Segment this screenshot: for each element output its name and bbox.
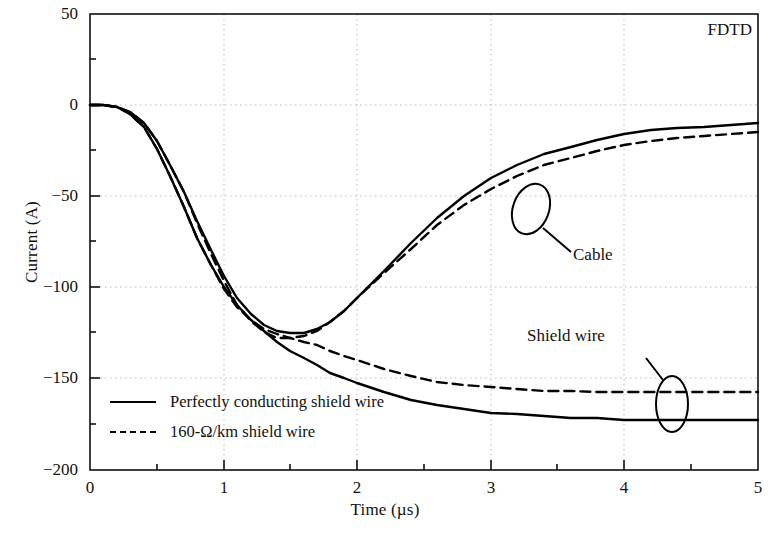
legend-dashed-line-swatch xyxy=(108,426,160,438)
method-label: FDTD xyxy=(708,20,752,40)
y-axis-title: Current (A) xyxy=(22,122,42,362)
legend-label-solid: Perfectly conducting shield wire xyxy=(170,392,384,412)
x-tick-label-4: 4 xyxy=(604,478,644,498)
y-tick-label-m200: −200 xyxy=(16,460,78,480)
annotation-shield-wire: Shield wire xyxy=(527,326,605,346)
y-tick-label-50: 50 xyxy=(16,4,78,24)
cable-annotation-ellipse xyxy=(505,178,557,239)
annotation-cable: Cable xyxy=(573,245,613,265)
legend: Perfectly conducting shield wire 160-Ω/k… xyxy=(108,387,384,447)
y-tick-label-m150: −150 xyxy=(16,368,78,388)
x-tick-label-2: 2 xyxy=(337,478,377,498)
y-tick-label-0: 0 xyxy=(16,95,78,115)
legend-item-solid: Perfectly conducting shield wire xyxy=(108,387,384,417)
shield-annotation-ellipse xyxy=(656,376,688,432)
legend-label-dashed: 160-Ω/km shield wire xyxy=(170,422,315,442)
legend-item-dashed: 160-Ω/km shield wire xyxy=(108,417,384,447)
x-tick-label-3: 3 xyxy=(471,478,511,498)
figure-container: 50 0 −50 −100 −150 −200 0 1 2 3 4 5 Time… xyxy=(0,0,770,543)
annotation-markers xyxy=(505,178,688,432)
x-tick-label-0: 0 xyxy=(70,478,110,498)
x-tick-label-1: 1 xyxy=(204,478,244,498)
x-axis-title: Time (µs) xyxy=(0,500,770,520)
x-tick-label-5: 5 xyxy=(738,478,770,498)
curve-shield-dashed xyxy=(90,105,758,392)
legend-solid-line-swatch xyxy=(108,396,160,408)
shield-annotation-leader xyxy=(646,358,663,380)
plot-canvas xyxy=(0,0,770,543)
cable-annotation-leader xyxy=(543,228,571,252)
